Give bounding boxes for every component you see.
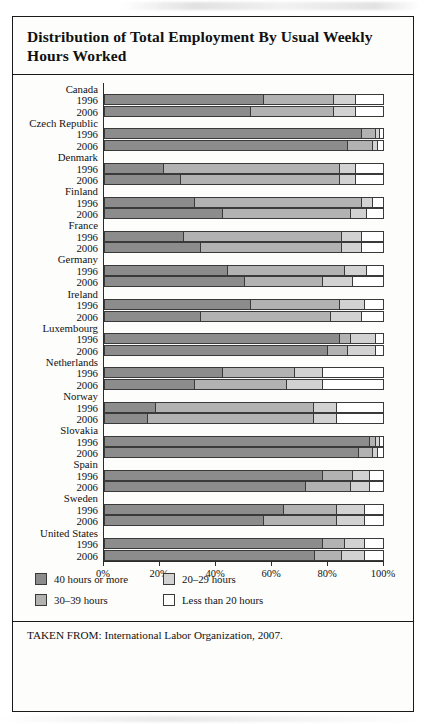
bar-segment bbox=[250, 300, 339, 309]
year-label: 1996 bbox=[76, 402, 98, 414]
bar-segment bbox=[222, 209, 350, 218]
scan-artifact-bottom bbox=[0, 716, 426, 722]
country-group: Denmark19962006 bbox=[103, 151, 395, 185]
bar-segment bbox=[361, 243, 383, 252]
bar-segment bbox=[294, 368, 322, 377]
country-group: Ireland19962006 bbox=[103, 288, 395, 322]
bar-segment bbox=[147, 414, 314, 423]
bar-segment bbox=[375, 334, 383, 343]
bar-segment bbox=[347, 346, 375, 355]
stacked-bar bbox=[104, 265, 384, 276]
bar-segment bbox=[322, 277, 353, 286]
country-label: Denmark bbox=[58, 151, 98, 163]
bar-segment bbox=[105, 437, 369, 446]
legend-swatch bbox=[163, 594, 175, 606]
bar-segment bbox=[366, 209, 383, 218]
bar-segment bbox=[361, 198, 372, 207]
year-label: 1996 bbox=[76, 94, 98, 106]
legend-label: 20–29 hours bbox=[182, 573, 236, 585]
bar-segment bbox=[105, 368, 222, 377]
stacked-bar bbox=[104, 106, 384, 117]
stacked-bar bbox=[104, 345, 384, 356]
chart-legend: 40 hours or more20–29 hours30–39 hoursLe… bbox=[35, 568, 365, 610]
bar-segment bbox=[361, 312, 383, 321]
bar-segment bbox=[105, 164, 163, 173]
bar-segment bbox=[105, 266, 227, 275]
bar-segment bbox=[333, 95, 355, 104]
bar-segment bbox=[105, 334, 339, 343]
stacked-bar bbox=[104, 402, 384, 413]
x-tick bbox=[215, 561, 216, 566]
stacked-bar bbox=[104, 515, 384, 526]
bar-segment bbox=[105, 403, 155, 412]
country-label: Canada bbox=[66, 83, 98, 95]
x-tick bbox=[327, 561, 328, 566]
legend-label: 40 hours or more bbox=[54, 573, 128, 585]
title-divider bbox=[13, 74, 413, 75]
stacked-bar bbox=[104, 94, 384, 105]
bar-segment bbox=[105, 198, 194, 207]
bar-segment bbox=[358, 448, 372, 457]
stacked-bar bbox=[104, 481, 384, 492]
bar-segment bbox=[327, 346, 346, 355]
country-group: Luxembourg19962006 bbox=[103, 322, 395, 356]
bar-segment bbox=[313, 403, 335, 412]
year-label: 1996 bbox=[76, 504, 98, 516]
stacked-bar bbox=[104, 550, 384, 561]
bar-segment bbox=[105, 175, 180, 184]
bar-segment bbox=[355, 164, 383, 173]
bar-segment bbox=[347, 141, 372, 150]
figure-container: Distribution of Total Employment By Usua… bbox=[12, 16, 414, 712]
source-note: TAKEN FROM: International Labor Organiza… bbox=[27, 629, 283, 641]
country-label: France bbox=[69, 219, 98, 231]
legend-swatch bbox=[35, 594, 47, 606]
bar-segment bbox=[227, 266, 344, 275]
year-label: 1996 bbox=[76, 333, 98, 345]
legend-item: 30–39 hours bbox=[35, 594, 163, 606]
bar-segment bbox=[364, 505, 383, 514]
stacked-bar bbox=[104, 311, 384, 322]
plot-region: Canada19962006Czech Republic19962006Denm… bbox=[103, 83, 395, 561]
stacked-bar bbox=[104, 299, 384, 310]
legend-swatch bbox=[35, 573, 47, 585]
bar-segment bbox=[105, 539, 322, 548]
bar-segment bbox=[313, 414, 335, 423]
bar-segment bbox=[105, 95, 263, 104]
bar-segment bbox=[105, 141, 347, 150]
stacked-bar bbox=[104, 333, 384, 344]
stacked-bar bbox=[104, 174, 384, 185]
country-label: Germany bbox=[58, 253, 98, 265]
country-label: United States bbox=[40, 527, 98, 539]
year-label: 1996 bbox=[76, 128, 98, 140]
bar-segment bbox=[105, 209, 222, 218]
bar-segment bbox=[369, 471, 383, 480]
bar-segment bbox=[344, 266, 366, 275]
stacked-bar bbox=[104, 208, 384, 219]
bar-segment bbox=[286, 380, 322, 389]
stacked-bar bbox=[104, 163, 384, 174]
x-tick bbox=[103, 561, 104, 566]
bar-segment bbox=[336, 403, 383, 412]
x-tick-label: 100% bbox=[371, 568, 396, 579]
year-label: 1996 bbox=[76, 470, 98, 482]
stacked-bar bbox=[104, 197, 384, 208]
bar-segment bbox=[364, 300, 383, 309]
bar-segment bbox=[355, 95, 383, 104]
country-label: Finland bbox=[65, 185, 98, 197]
bar-segment bbox=[352, 471, 369, 480]
bar-segment bbox=[361, 129, 375, 138]
bar-segment bbox=[355, 175, 383, 184]
bar-segment bbox=[377, 141, 383, 150]
country-group: Norway19962006 bbox=[103, 390, 395, 424]
bar-segment bbox=[105, 551, 314, 560]
bar-segment bbox=[105, 380, 194, 389]
bar-segment bbox=[244, 277, 322, 286]
year-label: 1996 bbox=[76, 299, 98, 311]
bar-segment bbox=[350, 209, 367, 218]
bar-segment bbox=[105, 346, 327, 355]
country-label: Spain bbox=[73, 458, 98, 470]
bar-segment bbox=[364, 539, 383, 548]
bar-segment bbox=[322, 380, 383, 389]
bar-segment bbox=[194, 380, 286, 389]
stacked-bar bbox=[104, 140, 384, 151]
